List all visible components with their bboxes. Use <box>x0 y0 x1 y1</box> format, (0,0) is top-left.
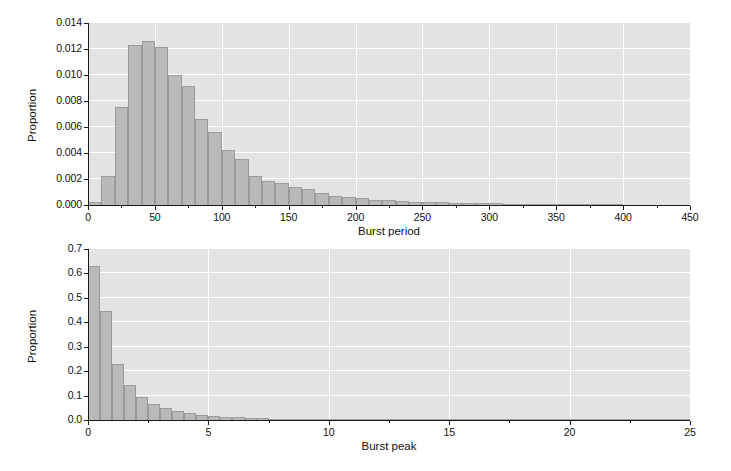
gridline-horizontal <box>88 321 690 322</box>
y-axis-tick <box>84 420 88 421</box>
x-axis-tick-label: 25 <box>665 426 715 438</box>
gridline-vertical <box>556 23 557 205</box>
x-axis-tick-label: 300 <box>464 211 514 223</box>
x-axis-tick <box>556 206 557 210</box>
histogram-bar <box>88 266 100 420</box>
y-axis-tick-label: 0.006 <box>32 120 82 132</box>
x-axis-minor-tick <box>389 206 390 208</box>
gridline-vertical <box>208 249 209 420</box>
x-axis-tick <box>422 206 423 210</box>
gridline-vertical <box>570 249 571 420</box>
x-axis-minor-tick <box>657 206 658 208</box>
y-axis-tick <box>84 49 88 50</box>
y-axis-tick-label: 0.5 <box>32 291 82 303</box>
gridline-horizontal <box>88 272 690 273</box>
y-axis-tick-label: 0.3 <box>32 340 82 352</box>
gridline-horizontal <box>88 370 690 371</box>
histogram-bar <box>195 119 208 205</box>
x-axis-tick <box>449 421 450 425</box>
y-axis-tick-label: 0.2 <box>32 364 82 376</box>
x-axis-tick <box>289 206 290 210</box>
x-axis-tick-label: 20 <box>545 426 595 438</box>
histogram-bar <box>289 187 302 205</box>
gridline-horizontal <box>88 395 690 396</box>
panel-burst-peak: 05101520250.00.10.20.30.40.50.60.7 Burst… <box>0 235 731 471</box>
x-axis-tick <box>570 421 571 425</box>
x-axis-tick <box>356 206 357 210</box>
y-axis-tick <box>84 179 88 180</box>
x-axis-tick <box>623 206 624 210</box>
histogram-bar <box>262 181 275 205</box>
histogram-bar <box>235 159 248 205</box>
histogram-bar <box>124 385 136 420</box>
y-axis-tick-label: 0.002 <box>32 172 82 184</box>
histogram-bar <box>142 41 155 205</box>
plot-area-burst-peak <box>88 249 690 420</box>
gridline-vertical <box>289 23 290 205</box>
gridline-vertical <box>329 249 330 420</box>
y-axis-tick <box>84 347 88 348</box>
y-axis-tick-label: 0.4 <box>32 315 82 327</box>
gridline-horizontal <box>88 346 690 347</box>
x-axis-tick <box>88 421 89 425</box>
x-axis-minor-tick <box>269 421 270 423</box>
y-axis-tick <box>84 371 88 372</box>
x-axis-minor-tick <box>389 421 390 423</box>
x-axis-tick-label: 5 <box>183 426 233 438</box>
y-axis-tick-label: 0.6 <box>32 266 82 278</box>
histogram-bar <box>148 404 160 420</box>
x-axis-tick <box>208 421 209 425</box>
x-axis-tick-label: 150 <box>264 211 314 223</box>
histogram-bar <box>222 150 235 205</box>
y-axis-tick-label: 0.1 <box>32 389 82 401</box>
y-axis-tick-label: 0.014 <box>32 16 82 28</box>
y-axis-title-burst-period: Proportion <box>26 89 38 142</box>
y-axis-tick <box>84 298 88 299</box>
x-axis-tick-label: 450 <box>665 211 715 223</box>
y-axis-tick-label: 0.0 <box>32 413 82 425</box>
y-axis-tick-label: 0.000 <box>32 198 82 210</box>
y-axis-tick <box>84 205 88 206</box>
x-axis-minor-tick <box>255 206 256 208</box>
x-axis-tick <box>155 206 156 210</box>
y-axis-tick-label: 0.012 <box>32 42 82 54</box>
histogram-bar <box>100 311 112 420</box>
histogram-bar <box>172 411 184 420</box>
histogram-bar <box>302 189 315 205</box>
x-axis-tick-label: 400 <box>598 211 648 223</box>
histogram-bar <box>315 193 328 205</box>
y-axis-tick-label: 0.7 <box>32 242 82 254</box>
histogram-bar <box>329 196 342 205</box>
histogram-bar <box>182 86 195 205</box>
y-axis-tick-label: 0.004 <box>32 146 82 158</box>
y-axis-tick <box>84 101 88 102</box>
x-axis-tick <box>489 206 490 210</box>
histogram-bar <box>160 408 172 420</box>
x-axis-minor-tick <box>523 206 524 208</box>
x-axis-tick-label: 0 <box>63 426 113 438</box>
histogram-bar <box>128 45 141 205</box>
x-axis-tick <box>329 421 330 425</box>
x-axis-minor-tick <box>121 206 122 208</box>
y-axis-tick <box>84 75 88 76</box>
panel-burst-period: 0501001502002503003504004500.0000.0020.0… <box>0 0 731 236</box>
histogram-bar <box>155 47 168 205</box>
gridline-vertical <box>422 23 423 205</box>
histogram-bar <box>249 176 262 205</box>
histogram-bar <box>168 75 181 205</box>
y-axis-tick <box>84 127 88 128</box>
x-axis-tick <box>690 421 691 425</box>
histogram-bar <box>184 413 196 420</box>
x-axis-tick-label: 15 <box>424 426 474 438</box>
x-axis-tick-label: 250 <box>397 211 447 223</box>
gridline-horizontal <box>88 297 690 298</box>
histogram-bar <box>112 364 124 420</box>
y-axis-tick <box>84 249 88 250</box>
histogram-bar <box>136 397 148 420</box>
x-axis-minor-tick <box>322 206 323 208</box>
x-axis-minor-tick <box>456 206 457 208</box>
x-axis-tick-label: 350 <box>531 211 581 223</box>
y-axis-line <box>88 23 89 206</box>
gridline-vertical <box>489 23 490 205</box>
x-axis-minor-tick <box>630 421 631 423</box>
